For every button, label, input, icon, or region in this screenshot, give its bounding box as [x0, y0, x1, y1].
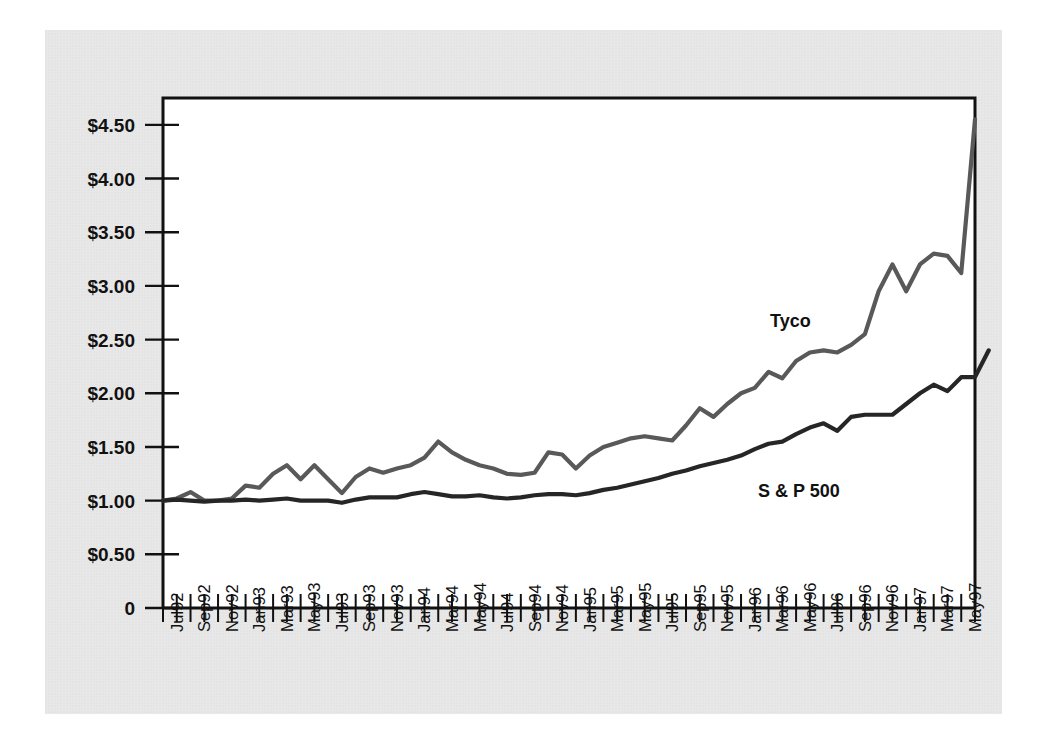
- plot-area-background: [163, 98, 975, 608]
- y-tick-label: $0.50: [87, 544, 135, 565]
- y-tick-label: $1.00: [87, 491, 135, 512]
- x-tick-label: May94: [471, 582, 489, 632]
- y-tick-label: $2.00: [87, 383, 135, 404]
- x-tick-label: Jul96: [828, 593, 846, 632]
- x-tick-label: Sep92: [195, 584, 213, 632]
- x-tick-label: Jul94: [498, 593, 516, 632]
- x-tick-label: Jul92: [168, 593, 186, 632]
- x-tick-label: Sep96: [856, 584, 874, 632]
- x-tick-label: Mar94: [443, 585, 461, 632]
- y-tick-label: $4.50: [87, 115, 135, 136]
- x-tick-label: Sep95: [691, 584, 709, 632]
- y-tick-label: $3.00: [87, 276, 135, 297]
- y-tick-label: $4.00: [87, 169, 135, 190]
- x-tick-label: May96: [801, 582, 819, 632]
- y-axis-tick-labels: 0$0.50$1.00$1.50$2.00$2.50$3.00$3.50$4.0…: [87, 115, 135, 619]
- series-label-s-p-500: S & P 500: [758, 481, 840, 501]
- x-tick-label: Mar95: [608, 585, 626, 632]
- line-chart: 0$0.50$1.00$1.50$2.00$2.50$3.00$3.50$4.0…: [0, 0, 1049, 750]
- x-tick-label: Nov96: [883, 584, 901, 632]
- y-tick-label: $2.50: [87, 330, 135, 351]
- x-tick-label: Nov94: [553, 584, 571, 632]
- x-tick-label: Mar93: [278, 585, 296, 632]
- x-tick-label: Jul93: [333, 593, 351, 632]
- y-tick-label: $3.50: [87, 222, 135, 243]
- x-tick-label: Jan96: [746, 587, 764, 632]
- y-tick-label: 0: [124, 598, 135, 619]
- x-tick-label: May97: [966, 582, 984, 632]
- figure-container: 0$0.50$1.00$1.50$2.00$2.50$3.00$3.50$4.0…: [0, 0, 1049, 750]
- x-tick-label: May95: [636, 582, 654, 632]
- x-tick-label: May93: [305, 582, 323, 632]
- x-tick-label: Jan93: [250, 587, 268, 632]
- x-tick-label: Sep94: [526, 584, 544, 632]
- x-tick-label: Nov95: [718, 584, 736, 632]
- x-tick-label: Jan97: [911, 587, 929, 632]
- x-tick-label: Nov93: [388, 584, 406, 632]
- x-tick-label: Jul95: [663, 593, 681, 632]
- series-label-tyco: Tyco: [770, 311, 811, 331]
- x-tick-label: Jan94: [415, 587, 433, 632]
- x-tick-label: Mar97: [938, 585, 956, 632]
- y-tick-label: $1.50: [87, 437, 135, 458]
- x-tick-label: Nov92: [223, 584, 241, 632]
- x-tick-label: Sep93: [360, 584, 378, 632]
- x-tick-label: Mar96: [773, 585, 791, 632]
- x-tick-label: Jan95: [581, 587, 599, 632]
